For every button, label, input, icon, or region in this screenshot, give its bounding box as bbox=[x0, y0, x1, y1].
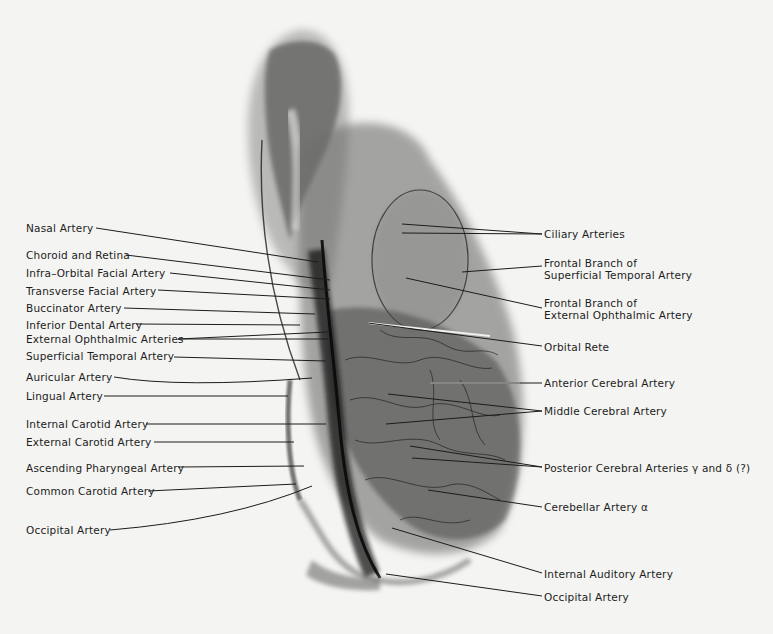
label-orbital-rete: Orbital Rete bbox=[544, 341, 609, 353]
label-inferior-dental-artery: Inferior Dental Artery bbox=[26, 319, 142, 331]
label-internal-carotid-artery: Internal Carotid Artery bbox=[26, 418, 148, 430]
label-posterior-cerebral-arteries: Posterior Cerebral Arteries γ and δ (?) bbox=[544, 462, 750, 474]
label-frontal-branch-external-ophthalmic-line2: External Ophthalmic Artery bbox=[544, 309, 693, 321]
leader-line bbox=[178, 466, 304, 467]
label-external-ophthalmic-arteries: External Ophthalmic Arteries bbox=[26, 333, 184, 345]
label-ascending-pharyngeal-artery: Ascending Pharyngeal Artery bbox=[26, 462, 184, 474]
label-lingual-artery: Lingual Artery bbox=[26, 390, 103, 402]
label-superficial-temporal-artery: Superficial Temporal Artery bbox=[26, 350, 174, 362]
label-frontal-branch-superficial-temporal-line1: Frontal Branch of bbox=[544, 257, 637, 269]
label-choroid-and-retina: Choroid and Retina bbox=[26, 249, 130, 261]
label-infra-orbital-facial-artery: Infra–Orbital Facial Artery bbox=[26, 267, 165, 279]
label-cerebellar-artery: Cerebellar Artery α bbox=[544, 501, 648, 513]
leader-line bbox=[174, 357, 326, 361]
label-occipital-artery-left: Occipital Artery bbox=[26, 524, 111, 536]
label-ciliary-arteries: Ciliary Arteries bbox=[544, 228, 625, 240]
label-external-carotid-artery: External Carotid Artery bbox=[26, 436, 151, 448]
label-frontal-branch-external-ophthalmic-line1: Frontal Branch of bbox=[544, 297, 637, 309]
label-transverse-facial-artery: Transverse Facial Artery bbox=[26, 285, 156, 297]
label-auricular-artery: Auricular Artery bbox=[26, 371, 112, 383]
label-occipital-artery-right: Occipital Artery bbox=[544, 591, 629, 603]
leader-line bbox=[136, 324, 300, 325]
leader-line bbox=[124, 308, 315, 314]
label-internal-auditory-artery: Internal Auditory Artery bbox=[544, 568, 673, 580]
label-frontal-branch-superficial-temporal-line2: Superficial Temporal Artery bbox=[544, 269, 692, 281]
label-buccinator-artery: Buccinator Artery bbox=[26, 302, 122, 314]
label-middle-cerebral-artery: Middle Cerebral Artery bbox=[544, 405, 667, 417]
leader-line bbox=[148, 484, 296, 491]
label-common-carotid-artery: Common Carotid Artery bbox=[26, 485, 155, 497]
leader-line bbox=[114, 377, 312, 383]
label-anterior-cerebral-artery: Anterior Cerebral Artery bbox=[544, 377, 675, 389]
leader-line bbox=[386, 574, 542, 596]
label-nasal-artery: Nasal Artery bbox=[26, 222, 93, 234]
radiograph-image bbox=[248, 30, 523, 590]
